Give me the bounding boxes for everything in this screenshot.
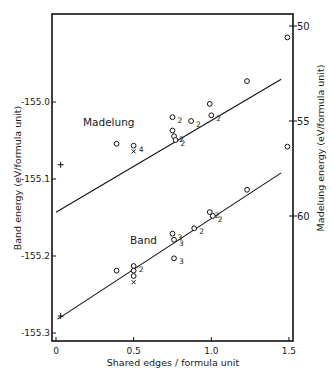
point-labels: 4222222333222 xyxy=(139,114,223,274)
circle-marker xyxy=(170,115,175,120)
y-tick-label: -155.3 xyxy=(21,328,50,338)
circle-marker xyxy=(114,268,119,273)
x-tick-label: 1.5 xyxy=(282,346,296,356)
multiplicity-label: 2 xyxy=(196,120,201,129)
circle-marker xyxy=(170,231,175,236)
multiplicity-label: 3 xyxy=(179,257,184,266)
circle-marker xyxy=(172,256,177,261)
circle-marker xyxy=(170,128,175,133)
y2-tick-label: 55 xyxy=(297,116,310,127)
multiplicity-label: 2 xyxy=(216,114,221,123)
circle-marker xyxy=(209,113,214,118)
multiplicity-label: 2 xyxy=(218,215,223,224)
data-points xyxy=(58,35,290,319)
multiplicity-label: 3 xyxy=(179,239,184,248)
circle-marker xyxy=(131,268,136,273)
x-marker xyxy=(132,149,136,153)
x-axis-title: Shared edges / formula unit xyxy=(107,357,240,368)
circle-marker xyxy=(114,141,119,146)
circle-marker xyxy=(173,138,178,143)
y2-tick-label: 60 xyxy=(297,211,310,222)
circle-marker xyxy=(131,264,136,269)
x-tick-label: 0 xyxy=(53,346,59,356)
circle-marker xyxy=(189,119,194,124)
band-series-label: Band xyxy=(130,234,157,246)
circle-marker xyxy=(245,187,250,192)
x-marker xyxy=(132,280,136,284)
circle-marker xyxy=(245,79,250,84)
multiplicity-label: 2 xyxy=(177,116,182,125)
y2-tick-label: 50 xyxy=(297,21,310,32)
circle-marker xyxy=(131,274,136,279)
chart-canvas: 00.51.01.5-155.0-155.1-155.2-155.3505560… xyxy=(0,0,332,373)
y2-axis-title: Madelung energy (eV/formula unit) xyxy=(315,65,326,232)
x-tick-label: 1.0 xyxy=(204,346,219,356)
circle-marker xyxy=(207,102,212,107)
plot-frame xyxy=(52,14,293,341)
y-tick-label: -155.0 xyxy=(21,97,50,107)
circle-marker xyxy=(285,35,290,40)
circle-marker xyxy=(172,237,177,242)
multiplicity-label: 2 xyxy=(199,227,204,236)
y-tick-label: -155.1 xyxy=(21,174,50,184)
y-axis-title: Band energy (eV/formula unit) xyxy=(12,106,23,251)
y-tick-label: -155.2 xyxy=(21,251,50,261)
circle-marker xyxy=(131,143,136,148)
x-tick-label: 0.5 xyxy=(126,346,140,356)
multiplicity-label: 4 xyxy=(139,145,144,154)
band-fit-line xyxy=(58,173,282,319)
multiplicity-label: 2 xyxy=(181,139,186,148)
circle-marker xyxy=(285,144,290,149)
chart: 00.51.01.5-155.0-155.1-155.2-155.3505560… xyxy=(0,0,332,373)
axis-ticks: 00.51.01.5-155.0-155.1-155.2-155.3505560 xyxy=(21,21,310,356)
multiplicity-label: 2 xyxy=(139,265,144,274)
plus-marker xyxy=(58,162,64,168)
madelung-series-label: Madelung xyxy=(83,116,135,128)
circle-marker xyxy=(192,226,197,231)
